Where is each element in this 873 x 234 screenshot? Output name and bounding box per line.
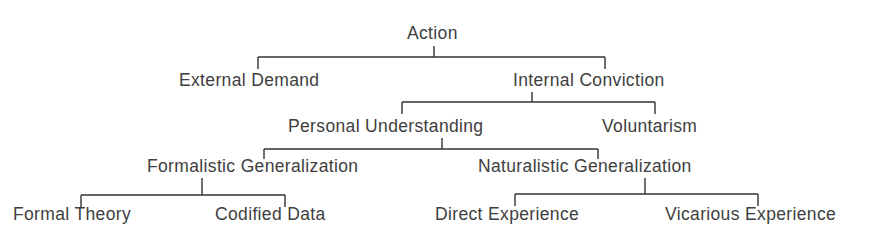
diagram-canvas: Action External Demand Internal Convicti… xyxy=(0,0,873,234)
node-formalistic-generalization: Formalistic Generalization xyxy=(147,158,358,176)
node-action: Action xyxy=(407,25,458,43)
node-direct-experience: Direct Experience xyxy=(435,206,579,224)
node-formal-theory: Formal Theory xyxy=(13,206,131,224)
bracket-internal-conviction xyxy=(402,92,655,114)
node-external-demand: External Demand xyxy=(179,72,319,90)
node-codified-data: Codified Data xyxy=(215,206,326,224)
bracket-formalistic-generalization xyxy=(81,178,285,207)
node-vicarious-experience: Vicarious Experience xyxy=(665,206,836,224)
node-naturalistic-generalization: Naturalistic Generalization xyxy=(478,158,692,176)
bracket-action xyxy=(258,46,605,69)
node-internal-conviction: Internal Conviction xyxy=(513,72,665,90)
node-voluntarism: Voluntarism xyxy=(602,118,697,136)
node-personal-understanding: Personal Understanding xyxy=(288,118,483,136)
bracket-naturalistic-generalization xyxy=(515,178,758,206)
